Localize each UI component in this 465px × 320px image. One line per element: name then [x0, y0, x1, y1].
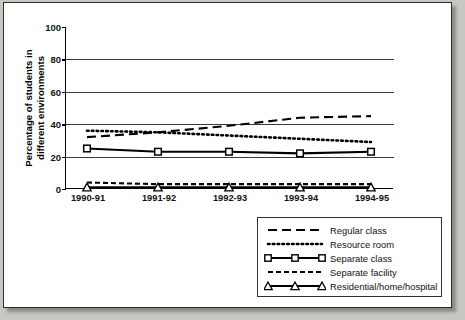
legend-label: Residential/home/hospital [326, 281, 437, 292]
y-axis-title: Percentage of students in different envi… [18, 27, 52, 189]
legend-key-icon [264, 279, 326, 293]
y-tick-label-0: 0 [56, 184, 61, 195]
legend-key-icon [264, 237, 326, 251]
series-plot [65, 27, 393, 189]
chart-legend: Regular classResource roomSeparate class… [257, 217, 442, 297]
legend-row-residential-home-hospital[interactable]: Residential/home/hospital [264, 279, 435, 293]
legend-label: Regular class [326, 225, 387, 236]
y-tick-label-40: 40 [50, 119, 61, 130]
marker-square-1994-95 [368, 148, 375, 155]
x-tick-label-1990-91: 1990-91 [71, 193, 105, 203]
legend-row-resource-room[interactable]: Resource room [264, 237, 435, 251]
y-tick-label-100: 100 [45, 22, 61, 33]
legend-label: Separate class [326, 253, 392, 264]
series-line-resource-room [87, 131, 371, 142]
legend-key-icon [264, 251, 326, 265]
x-tick-label-1994-95: 1994-95 [355, 193, 389, 203]
marker-square-1993-94 [297, 150, 304, 157]
y-tick-label-60: 60 [50, 86, 61, 97]
y-axis-title-line1: Percentage of students in [23, 49, 34, 166]
marker-square-1992-93 [226, 148, 233, 155]
screenshot-root: Percentage of students in different envi… [0, 0, 465, 320]
legend-row-regular-class[interactable]: Regular class [264, 223, 435, 237]
x-tick-label-1992-93: 1992-93 [213, 193, 247, 203]
series-line-regular-class [87, 116, 371, 137]
x-tick-label-1991-92: 1991-92 [142, 193, 176, 203]
legend-label: Separate facility [326, 267, 397, 278]
chart-area: Percentage of students in different envi… [4, 3, 453, 309]
marker-square-1991-92 [155, 148, 162, 155]
legend-row-separate-class[interactable]: Separate class [264, 251, 435, 265]
legend-key-icon [264, 265, 326, 279]
y-tick-label-80: 80 [50, 54, 61, 65]
figure-card: Percentage of students in different envi… [3, 2, 452, 308]
legend-label: Resource room [326, 239, 394, 250]
x-tick-label-1993-94: 1993-94 [284, 193, 318, 203]
legend-key-icon [264, 223, 326, 237]
legend-row-separate-facility[interactable]: Separate facility [264, 265, 435, 279]
y-axis-title-line2: different environments [35, 56, 46, 160]
y-tick-mark-0 [62, 189, 66, 190]
y-tick-label-20: 20 [50, 151, 61, 162]
marker-square-1990-91 [84, 145, 91, 152]
